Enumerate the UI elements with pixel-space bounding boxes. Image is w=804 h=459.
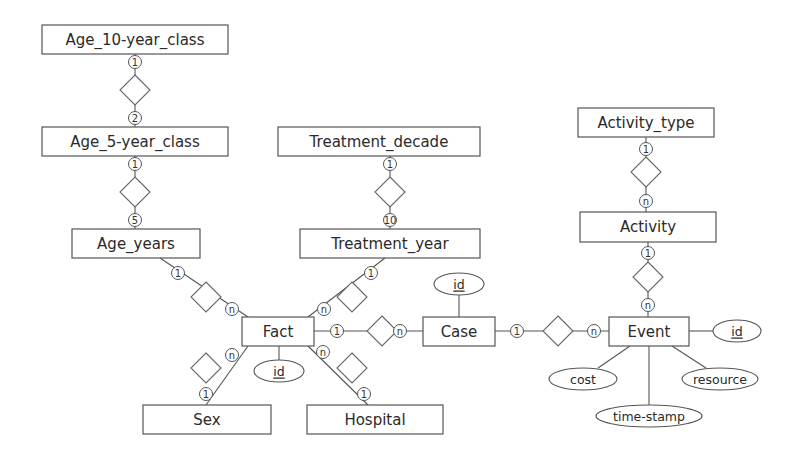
cardinality-label: 1 <box>643 144 649 155</box>
attribute-label: time-stamp <box>613 409 685 424</box>
cardinality-to: n <box>394 325 407 338</box>
relationship-diamond[interactable] <box>633 262 663 292</box>
relationship-ageyears-fact[interactable]: 1n <box>172 267 239 316</box>
entity-ageyears[interactable]: Age_years <box>72 229 200 258</box>
relationship-diamond[interactable] <box>191 353 221 383</box>
cardinality-to: n <box>642 299 655 312</box>
key-attribute-label: id <box>731 324 742 339</box>
cardinality-label: n <box>397 326 403 337</box>
relationship-diamond[interactable] <box>120 75 150 105</box>
cardinality-from: 1 <box>200 388 213 401</box>
cardinality-label: n <box>591 326 597 337</box>
relationship-acttype-activity[interactable]: 1n <box>631 143 661 208</box>
entity-hospital[interactable]: Hospital <box>307 405 443 434</box>
entity-label: Sex <box>193 411 220 429</box>
cardinality-label: 1 <box>361 389 367 400</box>
cardinality-to: 2 <box>129 112 142 125</box>
entity-label: Fact <box>263 323 294 341</box>
cardinality-to: n <box>318 303 331 316</box>
entity-acttype[interactable]: Activity_type <box>578 108 714 137</box>
cardinality-label: n <box>229 304 235 315</box>
cardinality-from: 1 <box>331 325 344 338</box>
relationship-tyear-fact[interactable]: 1n <box>318 267 378 316</box>
cardinality-label: 1 <box>368 268 374 279</box>
attribute-event-resource[interactable]: resource <box>682 368 758 390</box>
cardinality-from: 1 <box>511 325 524 338</box>
relationship-diamond[interactable] <box>337 282 367 312</box>
attribute-case-id[interactable]: id <box>434 273 484 295</box>
entity-activity[interactable]: Activity <box>580 212 716 242</box>
relationship-tdecade-tyear[interactable]: 110 <box>375 158 405 227</box>
entity-label: Age_10-year_class <box>66 31 205 50</box>
relationship-diamond[interactable] <box>120 177 150 207</box>
cardinality-to: n <box>317 346 330 359</box>
entity-tyear[interactable]: Treatment_year <box>300 229 480 258</box>
entity-label: Event <box>628 323 671 341</box>
entity-label: Activity_type <box>597 114 694 133</box>
key-attribute-label: id <box>273 364 284 379</box>
cardinality-from: 1 <box>642 247 655 260</box>
entity-label: Hospital <box>344 411 405 429</box>
er-diagram: 12151101n1n1n1n1n1n1n1n idididcosttime-s… <box>0 0 804 459</box>
cardinality-from: 1 <box>129 158 142 171</box>
cardinality-from: 1 <box>358 388 371 401</box>
cardinality-label: 1 <box>132 57 138 68</box>
entity-label: Age_years <box>97 235 175 254</box>
cardinality-label: n <box>321 304 327 315</box>
cardinality-from: 1 <box>365 267 378 280</box>
relationship-case-event[interactable]: 1n <box>511 316 601 346</box>
relationship-diamond[interactable] <box>375 177 405 207</box>
cardinality-label: n <box>643 196 649 207</box>
key-attribute-label: id <box>453 277 464 292</box>
entity-case[interactable]: Case <box>423 317 495 346</box>
relationship-age5-ageyears[interactable]: 15 <box>120 158 150 227</box>
relationship-activity-event[interactable]: 1n <box>633 247 663 312</box>
cardinality-label: n <box>320 347 326 358</box>
entity-sex[interactable]: Sex <box>143 405 271 434</box>
cardinality-from: 1 <box>172 267 185 280</box>
cardinality-label: 2 <box>132 113 138 124</box>
attribute-edge <box>598 346 630 368</box>
attributes: idididcosttime-stampresource <box>254 273 761 427</box>
cardinality-from: 1 <box>640 143 653 156</box>
cardinality-to: n <box>588 325 601 338</box>
cardinality-label: 1 <box>387 159 393 170</box>
entity-fact[interactable]: Fact <box>242 317 314 346</box>
attribute-event-time-stamp[interactable]: time-stamp <box>596 405 702 427</box>
entity-tdecade[interactable]: Treatment_decade <box>278 127 480 156</box>
attribute-event-cost[interactable]: cost <box>549 368 617 390</box>
cardinality-label: 1 <box>514 326 520 337</box>
cardinality-label: 1 <box>132 159 138 170</box>
cardinality-from: 1 <box>384 158 397 171</box>
entity-event[interactable]: Event <box>609 317 689 346</box>
relationship-diamond[interactable] <box>191 282 221 312</box>
attribute-fact-id[interactable]: id <box>254 360 304 382</box>
cardinality-to: n <box>226 349 239 362</box>
cardinality-to: 5 <box>129 214 142 227</box>
cardinality-from: 1 <box>129 56 142 69</box>
cardinality-label: 1 <box>334 326 340 337</box>
cardinality-label: n <box>229 350 235 361</box>
relationship-hospital-fact[interactable]: 1n <box>317 346 371 401</box>
cardinality-label: n <box>645 300 651 311</box>
attribute-event-id[interactable]: id <box>713 320 761 342</box>
relationship-age10-age5[interactable]: 12 <box>120 56 150 125</box>
relationship-diamond[interactable] <box>367 316 397 346</box>
cardinality-to: n <box>640 195 653 208</box>
entity-age5[interactable]: Age_5-year_class <box>42 127 228 156</box>
attribute-edge <box>672 346 706 368</box>
attribute-label: resource <box>693 372 747 387</box>
attribute-label: cost <box>570 372 596 387</box>
entity-label: Activity <box>620 218 676 236</box>
cardinality-label: 1 <box>645 248 651 259</box>
entity-label: Age_5-year_class <box>70 133 200 152</box>
relationship-diamond[interactable] <box>543 316 573 346</box>
entity-label: Treatment_year <box>330 235 449 254</box>
cardinality-to: 10 <box>384 214 397 227</box>
entity-label: Treatment_decade <box>309 133 449 152</box>
entity-label: Case <box>441 323 478 341</box>
cardinality-label: 10 <box>384 215 397 226</box>
relationship-diamond[interactable] <box>631 157 661 187</box>
entity-age10[interactable]: Age_10-year_class <box>42 25 228 54</box>
relationship-fact-case[interactable]: 1n <box>331 316 407 346</box>
